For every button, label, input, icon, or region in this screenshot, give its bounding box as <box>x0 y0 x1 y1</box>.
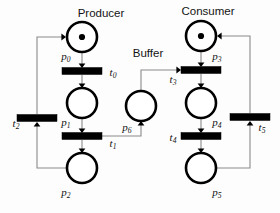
transition-t1[interactable]: t1 <box>62 133 116 151</box>
arrowhead-icon <box>61 34 66 41</box>
arc-t4-to-p5 <box>198 140 205 153</box>
transition-t4[interactable]: t4 <box>170 131 221 145</box>
transition-bar[interactable] <box>17 115 57 122</box>
place-circle[interactable] <box>186 88 216 118</box>
transition-label-t4: t4 <box>170 131 177 145</box>
arc-p1-to-t1 <box>79 118 86 133</box>
place-p5[interactable]: p5 <box>186 153 222 200</box>
transition-bar[interactable] <box>62 133 102 140</box>
token-dot <box>79 34 85 40</box>
place-circle[interactable] <box>67 88 97 118</box>
arc-line <box>216 123 250 168</box>
place-label-p2: p2 <box>60 186 71 200</box>
place-label-p6: p6 <box>121 121 132 135</box>
place-label-p5: p5 <box>211 186 222 200</box>
place-p0[interactable]: p0 <box>60 22 97 64</box>
arc-line <box>37 37 64 114</box>
arc-p4-to-t4 <box>198 118 205 133</box>
place-p3[interactable]: p3 <box>186 21 222 64</box>
place-circle[interactable] <box>67 153 97 183</box>
arc-p3-to-t3 <box>198 51 205 67</box>
place-p1[interactable]: p1 <box>60 88 97 130</box>
arc-t2-to-p0 <box>37 34 66 114</box>
transition-bar[interactable] <box>181 133 221 140</box>
transition-t2[interactable]: t2 <box>13 115 57 131</box>
place-label-p3: p3 <box>211 50 222 64</box>
transition-label-t1: t1 <box>110 137 117 151</box>
transition-label-t5: t5 <box>259 121 266 135</box>
place-circle[interactable] <box>126 91 156 121</box>
group-label-buffer: Buffer <box>133 47 164 59</box>
arc-t0-to-p1 <box>79 75 86 88</box>
transition-t0[interactable]: t0 <box>62 66 117 80</box>
arc-p2-to-t2 <box>34 122 67 168</box>
arc-t5-to-p3 <box>217 33 250 113</box>
place-label-p4: p4 <box>211 116 222 130</box>
arrowhead-icon <box>247 121 254 126</box>
arc-p0-to-t0 <box>79 52 86 68</box>
arc-line <box>219 36 250 113</box>
place-label-p1: p1 <box>60 116 70 130</box>
place-p2[interactable]: p2 <box>60 153 97 200</box>
token-dot <box>198 33 204 39</box>
arc-line <box>37 124 67 168</box>
transition-bar[interactable] <box>230 114 270 121</box>
transition-label-t3: t3 <box>170 73 177 87</box>
group-label-consumer: Consumer <box>181 5 234 17</box>
arrowhead-icon <box>176 67 181 74</box>
transition-bar[interactable] <box>62 68 102 75</box>
petri-net-diagram: t0t1t2t3t4t5 p0p1p2p3p4p5p6 ProducerBuff… <box>0 0 280 213</box>
transition-bar[interactable] <box>181 67 221 74</box>
arc-t3-to-p4 <box>198 74 205 88</box>
transition-label-t0: t0 <box>110 66 117 80</box>
place-p4[interactable]: p4 <box>186 88 222 130</box>
place-p6[interactable]: p6 <box>121 91 156 135</box>
petri-net-canvas: t0t1t2t3t4t5 p0p1p2p3p4p5p6 ProducerBuff… <box>0 0 280 213</box>
place-circle[interactable] <box>186 153 216 183</box>
arrowhead-icon <box>217 33 222 40</box>
group-label-producer: Producer <box>78 7 125 19</box>
arrowhead-icon <box>34 122 41 127</box>
arc-t1-to-p2 <box>79 140 86 153</box>
place-label-p0: p0 <box>60 50 71 64</box>
